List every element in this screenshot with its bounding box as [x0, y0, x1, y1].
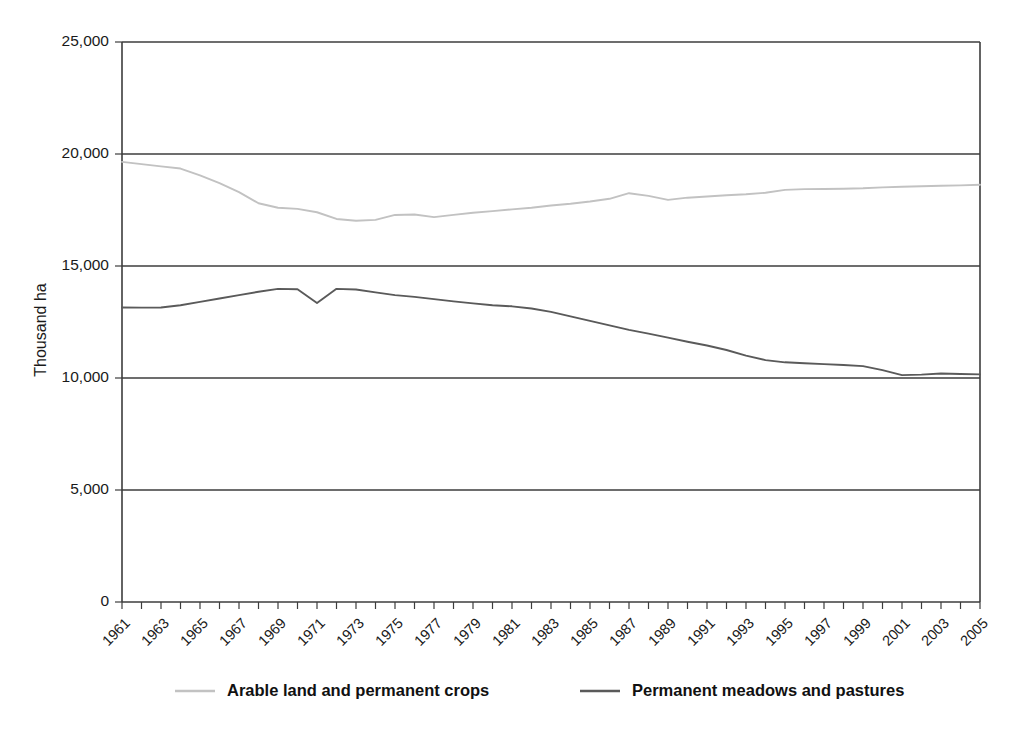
y-tick-label: 25,000: [62, 32, 110, 49]
y-tick-label: 10,000: [62, 368, 110, 385]
y-axis-title: Thousand ha: [32, 283, 49, 377]
y-tick-label: 5,000: [70, 480, 109, 497]
chart-figure: 05,00010,00015,00020,00025,000 196119631…: [0, 0, 1011, 730]
y-tick-label: 15,000: [62, 256, 110, 273]
y-tick-label: 20,000: [62, 144, 110, 161]
legend-label-1: Arable land and permanent crops: [227, 681, 489, 699]
y-tick-label: 0: [100, 592, 109, 609]
legend-label-2: Permanent meadows and pastures: [632, 681, 904, 699]
line-chart: 05,00010,00015,00020,00025,000 196119631…: [0, 0, 1011, 730]
